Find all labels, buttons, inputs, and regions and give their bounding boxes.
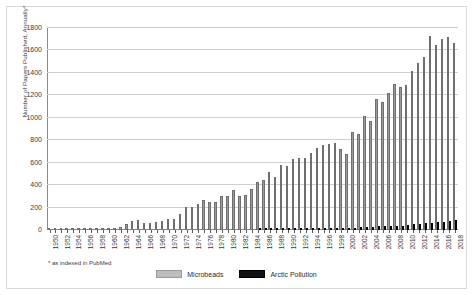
x-tick [181, 230, 182, 233]
legend-label: Microbeads [187, 271, 223, 278]
x-tick [115, 230, 116, 233]
x-tick [276, 230, 277, 233]
x-tick-label: 1980 [230, 235, 237, 249]
bar-microbeads [447, 37, 450, 230]
x-tick-label: 1988 [278, 235, 285, 249]
x-tick [240, 230, 241, 233]
x-tick-label: 1998 [338, 235, 345, 249]
x-tick [139, 230, 140, 233]
x-tick [300, 230, 301, 233]
y-tick-label-1200: 1200 [26, 91, 42, 98]
bar-microbeads [232, 190, 235, 230]
x-tick-label: 2004 [373, 235, 380, 249]
x-tick [258, 230, 259, 233]
x-tick [395, 230, 396, 233]
legend-label: Arctic Pollution [270, 271, 316, 278]
bar-microbeads [292, 159, 295, 230]
x-tick-label: 2002 [361, 235, 368, 249]
x-tick-label: 2008 [397, 235, 404, 249]
bar-microbeads [339, 149, 342, 230]
bar-arctic-pollution [443, 222, 445, 230]
chart-legend: MicrobeadsArctic Pollution [0, 270, 473, 278]
x-tick [103, 230, 104, 233]
x-tick [353, 230, 354, 233]
bar-microbeads [381, 102, 384, 230]
x-tick-label: 1968 [159, 235, 166, 249]
x-tick [312, 230, 313, 233]
x-tick [306, 230, 307, 233]
x-tick-label: 1970 [171, 235, 178, 249]
bar-microbeads [441, 39, 444, 230]
x-tick-label: 1960 [111, 235, 118, 249]
x-tick [234, 230, 235, 233]
bar-microbeads [149, 223, 152, 230]
x-tick [79, 230, 80, 233]
bar-microbeads [405, 85, 408, 230]
bar-group [47, 28, 458, 230]
x-tick-label: 1950 [52, 235, 59, 249]
x-tick [246, 230, 247, 233]
bar-microbeads [137, 220, 140, 230]
x-tick [151, 230, 152, 233]
x-tick [157, 230, 158, 233]
x-tick [216, 230, 217, 233]
x-tick [413, 230, 414, 233]
x-tick-label: 2016 [445, 235, 452, 249]
x-tick-label: 1982 [242, 235, 249, 249]
x-tick [431, 230, 432, 233]
bar-microbeads [208, 202, 211, 230]
bar-microbeads [268, 172, 271, 230]
bar-microbeads [155, 222, 158, 230]
bar-microbeads [238, 196, 241, 230]
x-tick [341, 230, 342, 233]
x-tick [228, 230, 229, 233]
bar-microbeads [345, 154, 348, 230]
bar-arctic-pollution [425, 223, 427, 230]
bar-microbeads [161, 221, 164, 230]
x-tick-label: 1978 [218, 235, 225, 249]
bar-arctic-pollution [431, 223, 433, 230]
bar-microbeads [351, 132, 354, 230]
bar-microbeads [393, 84, 396, 230]
x-tick-label: 1954 [75, 235, 82, 249]
x-tick [264, 230, 265, 233]
y-tick-label-1400: 1400 [26, 68, 42, 75]
bar-microbeads [357, 134, 360, 231]
x-tick [455, 230, 456, 233]
x-tick [282, 230, 283, 233]
x-tick [169, 230, 170, 233]
bar-microbeads [322, 145, 325, 230]
x-tick-label: 1964 [135, 235, 142, 249]
y-tick-label-1000: 1000 [26, 113, 42, 120]
x-tick [175, 230, 176, 233]
bar-microbeads [244, 195, 247, 230]
bar-arctic-pollution [437, 222, 439, 230]
bar-microbeads [369, 121, 372, 230]
x-tick [383, 230, 384, 233]
x-tick-label: 1986 [266, 235, 273, 249]
x-tick [97, 230, 98, 233]
bar-microbeads [375, 99, 378, 230]
legend-item[interactable]: Arctic Pollution [239, 270, 316, 278]
bar-microbeads [334, 143, 337, 230]
x-tick [252, 230, 253, 233]
x-tick [85, 230, 86, 233]
bar-microbeads [310, 153, 313, 230]
x-tick [163, 230, 164, 233]
bar-microbeads [453, 43, 456, 230]
bar-microbeads [316, 148, 319, 230]
x-tick [222, 230, 223, 233]
bar-microbeads [298, 158, 301, 230]
bar-microbeads [286, 166, 289, 230]
bar-microbeads [423, 57, 426, 230]
x-tick [270, 230, 271, 233]
chart-container: Number of Papers Published, Annually* 02… [0, 0, 473, 295]
x-tick [449, 230, 450, 233]
bar-microbeads [411, 71, 414, 230]
x-tick [127, 230, 128, 233]
bar-microbeads [363, 116, 366, 230]
legend-item[interactable]: Microbeads [156, 270, 223, 278]
bar-microbeads [167, 219, 170, 230]
x-tick [145, 230, 146, 233]
bar-microbeads [226, 196, 229, 230]
